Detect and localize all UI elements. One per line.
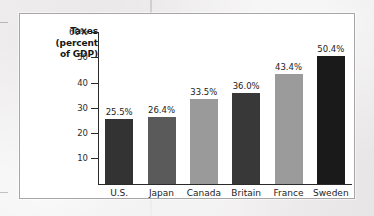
x-axis-label-sweden: Sweden <box>310 188 352 198</box>
x-axis-line <box>98 184 352 185</box>
y-axis-title-line-2: (percent <box>24 38 98 50</box>
bar-series: 25.5%26.4%33.5%36.0%43.4%50.4% <box>98 32 352 184</box>
bar[interactable]: 33.5% <box>190 99 218 184</box>
bar-value-label: 26.4% <box>148 105 175 115</box>
bar-group-us[interactable]: 25.5% <box>105 32 133 184</box>
bar[interactable]: 25.5% <box>105 119 133 183</box>
bar-value-label: 25.5% <box>106 107 133 117</box>
plot-area: Taxes (percent of GDP) 102030405060% 25.… <box>20 14 354 198</box>
y-axis-tick-label: 40 <box>60 78 88 88</box>
bar[interactable]: 50.4% <box>317 56 345 183</box>
x-axis-label-france: France <box>267 188 309 198</box>
y-axis-tick-label: 30 <box>60 103 88 113</box>
bar-value-label: 50.4% <box>317 44 344 54</box>
bar-group-france[interactable]: 43.4% <box>275 32 303 184</box>
bar[interactable]: 43.4% <box>275 74 303 184</box>
bar[interactable]: 36.0% <box>232 93 260 184</box>
y-axis-tick-label: 20 <box>60 128 88 138</box>
x-axis-label-japan: Japan <box>140 188 182 198</box>
bar[interactable]: 26.4% <box>148 117 176 184</box>
x-axis-label-britain: Britain <box>225 188 267 198</box>
bar-group-sweden[interactable]: 50.4% <box>317 32 345 184</box>
bar-group-canada[interactable]: 33.5% <box>190 32 218 184</box>
bar-group-britain[interactable]: 36.0% <box>232 32 260 184</box>
bar-group-japan[interactable]: 26.4% <box>148 32 176 184</box>
y-axis-tick-label: 50 <box>60 52 88 62</box>
x-axis-label-us: U.S. <box>98 188 140 198</box>
y-axis-tick-label: 10 <box>60 153 88 163</box>
x-axis-label-canada: Canada <box>183 188 225 198</box>
chart-figure-frame: Taxes (percent of GDP) 102030405060% 25.… <box>19 13 355 199</box>
bar-value-label: 33.5% <box>190 87 217 97</box>
bar-value-label: 43.4% <box>275 62 302 72</box>
y-axis-tick-label: 60% <box>60 27 88 37</box>
bar-value-label: 36.0% <box>233 81 260 91</box>
